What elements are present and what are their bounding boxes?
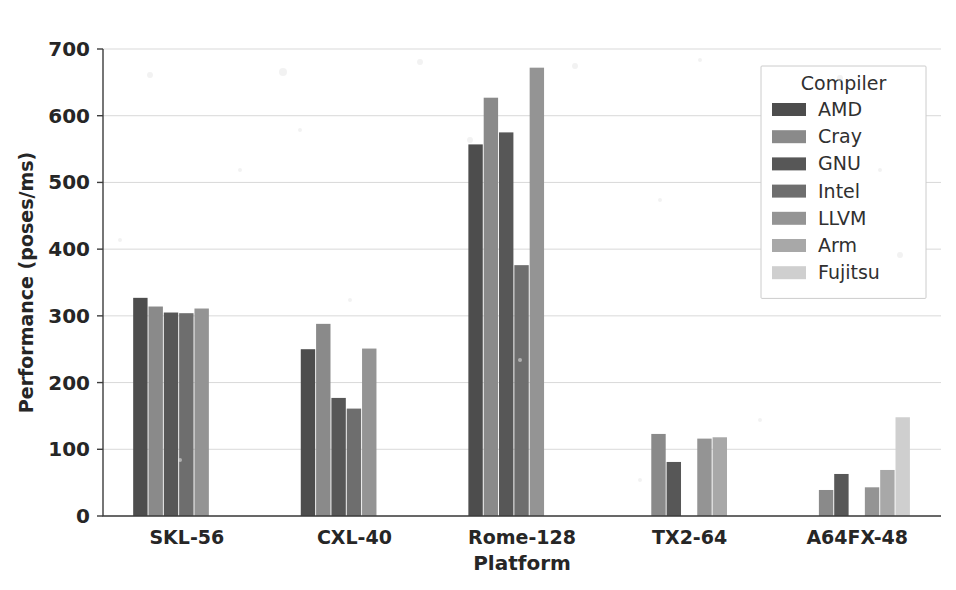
xtick-label-tx2-64: TX2-64 [652, 526, 727, 548]
legend-swatch-llvm [772, 212, 806, 225]
xtick-label-cxl-40: CXL-40 [317, 526, 392, 548]
legend-label-llvm: LLVM [818, 207, 866, 229]
ytick-label-300: 300 [48, 304, 90, 328]
bar-rome-128-amd [468, 144, 482, 516]
xtick-label-rome-128: Rome-128 [468, 526, 576, 548]
bar-a64fx-48-cray [819, 490, 833, 516]
chart-canvas: 0100200300400500600700 SKL-56CXL-40Rome-… [0, 0, 956, 590]
ytick-label-0: 0 [76, 504, 90, 528]
legend-title: Compiler [801, 72, 887, 94]
legend-swatch-amd [772, 103, 806, 116]
ytick-label-200: 200 [48, 371, 90, 395]
xtick-label-a64fx-48: A64FX-48 [806, 526, 908, 548]
bar-a64fx-48-gnu [834, 474, 848, 516]
bar-cxl-40-amd [301, 349, 315, 516]
bar-cxl-40-intel [347, 409, 361, 516]
bar-chart-figure: 0100200300400500600700 SKL-56CXL-40Rome-… [0, 0, 956, 590]
legend-label-gnu: GNU [818, 152, 861, 174]
noise-speck [638, 478, 642, 482]
x-axis-label: Platform [473, 551, 571, 575]
bar-rome-128-llvm [530, 68, 544, 516]
noise-speck [279, 68, 287, 76]
bar-rome-128-cray [484, 98, 498, 516]
noise-speck [118, 238, 122, 242]
noise-speck [298, 128, 302, 132]
bar-skl-56-cray [148, 307, 162, 516]
noise-speck [467, 137, 473, 143]
bar-tx2-64-gnu [667, 462, 681, 516]
xtick-label-skl-56: SKL-56 [149, 526, 224, 548]
legend-label-amd: AMD [818, 98, 862, 120]
bar-cxl-40-llvm [362, 349, 376, 516]
bar-tx2-64-llvm [697, 439, 711, 516]
noise-speck [897, 252, 903, 258]
bar-skl-56-intel [179, 313, 193, 516]
ytick-label-400: 400 [48, 237, 90, 261]
noise-speck [572, 63, 578, 69]
bar-tx2-64-cray [651, 434, 665, 516]
bar-cxl-40-cray [316, 324, 330, 516]
noise-speck [518, 358, 522, 362]
noise-speck [348, 298, 352, 302]
y-axis-label: Performance (poses/ms) [15, 152, 37, 413]
legend-swatch-fujitsu [772, 266, 806, 279]
bar-a64fx-48-llvm [865, 487, 879, 516]
ytick-label-500: 500 [48, 170, 90, 194]
bar-rome-128-gnu [499, 132, 513, 516]
legend-label-cray: Cray [818, 125, 862, 147]
noise-speck [417, 59, 423, 65]
bar-cxl-40-gnu [331, 398, 345, 516]
noise-speck [758, 418, 762, 422]
bar-skl-56-llvm [194, 309, 208, 516]
legend-swatch-cray [772, 130, 806, 143]
bar-a64fx-48-fujitsu [896, 417, 910, 516]
bar-a64fx-48-arm [880, 470, 894, 516]
bar-tx2-64-arm [713, 437, 727, 516]
legend-swatch-gnu [772, 157, 806, 170]
noise-speck [837, 75, 843, 81]
legend-label-intel: Intel [818, 180, 860, 202]
noise-speck [147, 72, 153, 78]
noise-speck [878, 168, 882, 172]
ytick-label-100: 100 [48, 437, 90, 461]
bar-rome-128-intel [514, 265, 528, 516]
ytick-label-700: 700 [48, 37, 90, 61]
chart-legend: CompilerAMDCrayGNUIntelLLVMArmFujitsu [761, 66, 926, 298]
legend-swatch-intel [772, 185, 806, 198]
noise-speck [698, 58, 702, 62]
legend-label-fujitsu: Fujitsu [818, 261, 880, 283]
noise-speck [178, 458, 182, 462]
legend-label-arm: Arm [818, 234, 857, 256]
ytick-label-600: 600 [48, 104, 90, 128]
noise-speck [238, 168, 242, 172]
noise-speck [658, 198, 662, 202]
bar-skl-56-gnu [164, 313, 178, 516]
bar-skl-56-amd [133, 298, 147, 516]
legend-swatch-arm [772, 239, 806, 252]
